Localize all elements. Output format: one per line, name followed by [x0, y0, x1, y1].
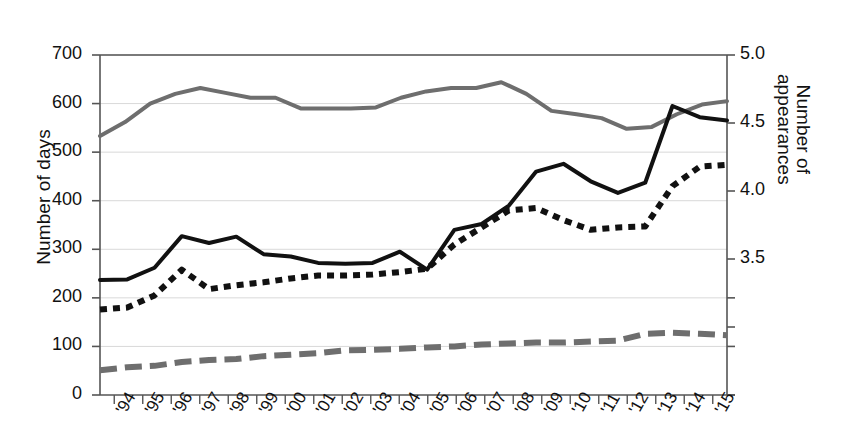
- y-axis-left-tick-label: 700: [22, 43, 82, 64]
- y-axis-left-tick-label: 400: [22, 189, 82, 210]
- chart-plot-area: [0, 0, 850, 425]
- y-axis-right-tick-label: 4.5: [740, 111, 792, 132]
- y-axis-left-tick-label: 300: [22, 237, 82, 258]
- series-line-days-solid: [100, 106, 727, 280]
- y-axis-left-tick-label: 0: [22, 383, 82, 404]
- y-axis-left-tick-label: 200: [22, 286, 82, 307]
- y-axis-left-tick-label: 600: [22, 92, 82, 113]
- y-axis-left-tick-label: 100: [22, 334, 82, 355]
- y-axis-left-tick-label: 500: [22, 140, 82, 161]
- chart-container: Number of days Number ofappearances 0100…: [0, 0, 850, 425]
- y-axis-right-tick-label: 5.0: [740, 43, 792, 64]
- series-line-appearances: [100, 82, 727, 136]
- series-line-days-dashed: [100, 333, 727, 370]
- y-axis-right-tick-label: 4.0: [740, 179, 792, 200]
- y-axis-right-tick-label: 3.5: [740, 247, 792, 268]
